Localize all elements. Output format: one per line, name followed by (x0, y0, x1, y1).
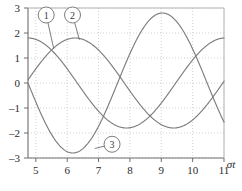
callout-label-3: 3 (110, 139, 115, 150)
callout-label-2: 2 (70, 10, 75, 21)
x-tick-label: 6 (64, 164, 70, 176)
x-tick-label: 9 (159, 164, 165, 176)
x-tick-label: 7 (96, 164, 102, 176)
y-tick-label: 3 (15, 2, 21, 14)
x-tick-label: 10 (187, 164, 199, 176)
y-tick-label: 0 (15, 77, 21, 89)
x-axis-title: σt (227, 158, 236, 170)
y-tick-label: –1 (8, 102, 20, 114)
y-tick-label: 2 (15, 27, 21, 39)
chart-background (0, 0, 242, 191)
x-tick-label: 5 (33, 164, 39, 176)
y-tick-label: 1 (15, 52, 21, 64)
chart-canvas: 123 5678910113210–1–2–3 σt (0, 0, 242, 191)
waveform-chart: 123 5678910113210–1–2–3 σt (0, 0, 242, 191)
y-tick-label: –2 (8, 127, 20, 139)
y-tick-label: –3 (8, 152, 21, 164)
callout-label-1: 1 (44, 10, 49, 21)
x-tick-label: 8 (127, 164, 133, 176)
